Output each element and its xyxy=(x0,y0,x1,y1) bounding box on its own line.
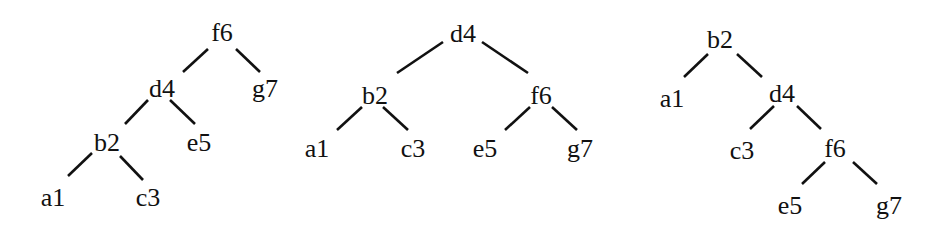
node-a1: a1 xyxy=(660,84,685,113)
node-c3: c3 xyxy=(730,136,755,165)
node-d4: d4 xyxy=(450,19,476,48)
edge-b2-c3 xyxy=(383,107,408,130)
edge-f6-g7 xyxy=(236,49,260,72)
edge-b2-a1 xyxy=(684,54,708,77)
edge-b2-a1 xyxy=(337,107,362,130)
node-b2: b2 xyxy=(362,81,388,110)
binary-tree-diagrams: f6d4g7b2e5a1c3 d4b2f6a1c3e5g7 b2a1d4c3f6… xyxy=(0,0,938,236)
node-d4: d4 xyxy=(149,74,175,103)
edge-d4-b2 xyxy=(397,42,443,73)
edge-b2-d4 xyxy=(737,54,762,77)
edge-f6-g7 xyxy=(552,107,577,130)
edge-d4-f6 xyxy=(797,106,821,129)
node-b2: b2 xyxy=(707,25,733,54)
node-c3: c3 xyxy=(136,183,161,212)
node-g7: g7 xyxy=(252,74,278,103)
tree-left: f6d4g7b2e5a1c3 xyxy=(41,18,278,212)
node-a1: a1 xyxy=(305,134,330,163)
tree-right: b2a1d4c3f6e5g7 xyxy=(660,25,902,220)
node-e5: e5 xyxy=(187,128,212,157)
edge-f6-d4 xyxy=(183,49,208,72)
edge-d4-c3 xyxy=(750,106,774,129)
node-e5: e5 xyxy=(473,134,498,163)
edge-f6-g7 xyxy=(853,162,877,184)
node-e5: e5 xyxy=(778,191,803,220)
edge-d4-f6 xyxy=(482,42,528,73)
node-a1: a1 xyxy=(41,183,66,212)
node-c3: c3 xyxy=(401,134,426,163)
node-g7: g7 xyxy=(876,191,902,220)
edge-d4-b2 xyxy=(125,100,148,124)
node-f6: f6 xyxy=(530,81,552,110)
node-f6: f6 xyxy=(211,18,233,47)
tree-middle: d4b2f6a1c3e5g7 xyxy=(305,19,593,163)
node-b2: b2 xyxy=(94,128,120,157)
node-f6: f6 xyxy=(824,134,846,163)
edge-f6-e5 xyxy=(802,162,825,184)
edge-b2-a1 xyxy=(68,153,92,176)
node-d4: d4 xyxy=(769,79,795,108)
edge-d4-e5 xyxy=(170,100,195,124)
edge-f6-e5 xyxy=(505,107,530,130)
edge-b2-c3 xyxy=(120,156,143,180)
node-g7: g7 xyxy=(567,134,593,163)
